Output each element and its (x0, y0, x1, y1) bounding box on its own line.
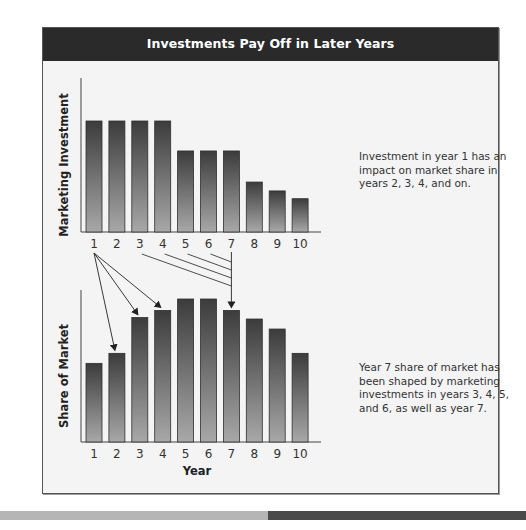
note-year7-share: Year 7 share of market has been shaped b… (359, 361, 519, 415)
x-tick-label: 3 (136, 237, 144, 251)
bar-year-3 (132, 318, 148, 442)
x-tick-label: 9 (273, 237, 281, 251)
link-year5-to-year7 (188, 254, 232, 270)
charts-canvas: 12345678910Marketing Investment 12345678… (43, 28, 500, 495)
share-of-market-chart: 12345678910Share of MarketYear (57, 290, 321, 478)
bar-year-3 (132, 121, 148, 232)
x-tick-label: 1 (90, 447, 98, 461)
link-year3-to-year7 (142, 254, 232, 286)
x-tick-label: 10 (292, 237, 307, 251)
bar-year-8 (246, 319, 262, 442)
bar-year-8 (246, 182, 262, 232)
x-tick-label: 8 (250, 447, 258, 461)
bar-year-4 (155, 310, 171, 442)
y-axis-title: Share of Market (57, 323, 71, 428)
bar-year-2 (109, 353, 125, 442)
footer-bar-light (0, 511, 268, 520)
x-tick-label: 7 (228, 447, 236, 461)
x-tick-label: 4 (159, 447, 167, 461)
x-tick-label: 1 (90, 237, 98, 251)
link-year6-to-year7 (211, 254, 232, 262)
x-tick-label: 3 (136, 447, 144, 461)
bar-year-5 (178, 151, 194, 232)
bar-year-9 (269, 191, 285, 232)
note-investment-impact: Investment in year 1 has an impact on ma… (359, 150, 519, 191)
x-tick-label: 5 (182, 447, 190, 461)
x-tick-label: 6 (205, 447, 213, 461)
x-axis-title: Year (182, 464, 212, 478)
bar-year-5 (178, 299, 194, 442)
figure-frame: Investments Pay Off in Later Years 12345… (42, 27, 499, 494)
x-tick-label: 2 (113, 237, 121, 251)
x-tick-label: 2 (113, 447, 121, 461)
bar-year-6 (201, 299, 217, 442)
bar-year-4 (155, 121, 171, 232)
x-tick-label: 10 (292, 447, 307, 461)
bar-year-7 (223, 310, 239, 442)
x-tick-label: 4 (159, 237, 167, 251)
x-tick-label: 5 (182, 237, 190, 251)
footer-bar-dark (268, 511, 526, 520)
x-tick-label: 9 (273, 447, 281, 461)
bar-year-9 (269, 329, 285, 442)
bar-year-10 (292, 353, 308, 442)
bar-year-1 (86, 121, 102, 232)
bar-year-10 (292, 199, 308, 232)
marketing-investment-chart: 12345678910Marketing Investment (57, 78, 321, 251)
x-tick-label: 7 (228, 237, 236, 251)
bar-year-2 (109, 121, 125, 232)
y-axis-title: Marketing Investment (57, 93, 71, 237)
x-tick-label: 8 (250, 237, 258, 251)
bar-year-6 (201, 151, 217, 232)
x-tick-label: 6 (205, 237, 213, 251)
bar-year-7 (223, 151, 239, 232)
bar-year-1 (86, 363, 102, 442)
